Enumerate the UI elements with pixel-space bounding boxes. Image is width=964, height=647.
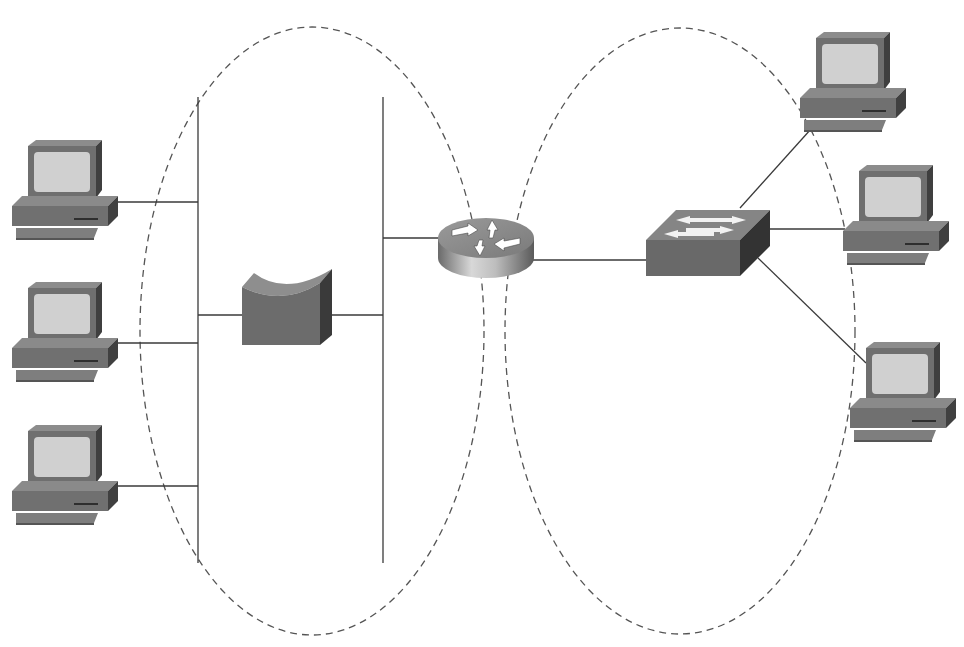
computer-icon[interactable] bbox=[12, 425, 118, 525]
computer-icon[interactable] bbox=[800, 32, 906, 132]
computer-icon[interactable] bbox=[12, 282, 118, 382]
diagram-canvas bbox=[0, 0, 964, 647]
links bbox=[118, 129, 866, 486]
link-switch-pc-right-3 bbox=[758, 258, 866, 363]
link-switch-pc-right-1 bbox=[740, 129, 811, 208]
bridge-icon[interactable] bbox=[242, 269, 332, 345]
computer-icon[interactable] bbox=[12, 140, 118, 240]
network-diagram bbox=[0, 0, 964, 647]
collision-domain-right bbox=[505, 28, 855, 634]
switch-icon[interactable] bbox=[646, 210, 770, 276]
router-icon[interactable] bbox=[438, 218, 534, 278]
computer-icon[interactable] bbox=[850, 342, 956, 442]
computer-icon[interactable] bbox=[843, 165, 949, 265]
